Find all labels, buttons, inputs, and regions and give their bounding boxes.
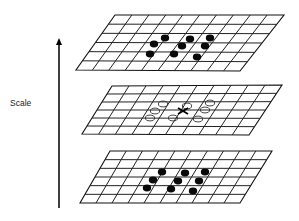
neighbor-pixel-filled bbox=[201, 169, 209, 176]
neighbor-pixel-filled bbox=[174, 178, 182, 185]
neighbor-pixel-filled bbox=[178, 43, 186, 50]
scale-layer-lower-scale bbox=[80, 151, 272, 203]
arrow-up-icon bbox=[56, 38, 62, 45]
neighbor-pixel-filled bbox=[201, 43, 209, 50]
scale-space-diagram: Scale bbox=[0, 0, 299, 221]
neighbor-pixel-filled bbox=[143, 185, 151, 192]
neighbor-pixel-filled bbox=[195, 178, 203, 185]
neighbor-pixel-filled bbox=[170, 51, 178, 58]
neighbor-pixel-filled bbox=[189, 188, 197, 195]
neighbor-pixel-filled bbox=[146, 51, 154, 58]
neighbor-pixel-filled bbox=[150, 41, 158, 48]
neighbor-pixel-filled bbox=[193, 54, 201, 61]
scale-layer-current-scale bbox=[82, 85, 282, 135]
neighbor-pixel-filled bbox=[167, 186, 175, 193]
neighbor-pixel-filled bbox=[161, 35, 169, 42]
neighbor-pixel-filled bbox=[158, 169, 166, 176]
neighbor-pixel-filled bbox=[181, 170, 189, 177]
scale-axis: Scale bbox=[10, 38, 62, 208]
neighbor-pixel-filled bbox=[206, 35, 214, 42]
neighbor-pixel-filled bbox=[149, 177, 157, 184]
scale-layer-upper-scale bbox=[76, 15, 284, 71]
neighbor-pixel-filled bbox=[186, 36, 194, 43]
scale-label: Scale bbox=[10, 98, 32, 108]
